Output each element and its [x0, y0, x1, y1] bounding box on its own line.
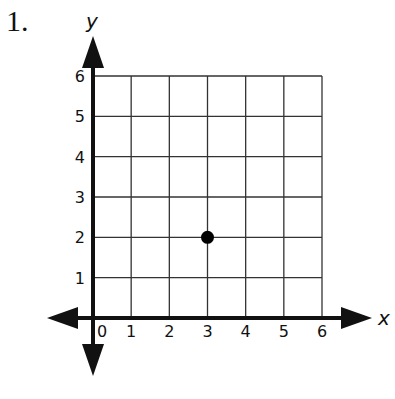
x-tick-label: 3 — [202, 322, 212, 341]
y-axis-up-arrow-icon — [82, 36, 104, 68]
y-tick-label: 5 — [75, 107, 85, 126]
y-tick-label: 1 — [75, 269, 85, 288]
x-axis-left-arrow-icon — [47, 307, 78, 329]
y-tick-label: 4 — [75, 148, 85, 167]
y-tick-label: 3 — [75, 188, 85, 207]
x-axis-right-arrow-icon — [341, 307, 372, 329]
x-tick-label: 4 — [241, 322, 251, 341]
y-axis-down-arrow-icon — [82, 344, 104, 376]
data-point — [201, 231, 214, 244]
x-tick-label: 6 — [317, 322, 327, 341]
y-axis-label: y — [85, 9, 99, 33]
y-tick-label: 6 — [75, 67, 85, 86]
x-tick-label: 1 — [126, 322, 136, 341]
coordinate-plane: xy0123456123456 — [0, 0, 395, 399]
x-axis-label: x — [377, 306, 390, 330]
x-tick-label: 0 — [97, 322, 107, 341]
x-tick-label: 2 — [164, 322, 174, 341]
x-tick-label: 5 — [279, 322, 289, 341]
y-tick-label: 2 — [75, 228, 85, 247]
